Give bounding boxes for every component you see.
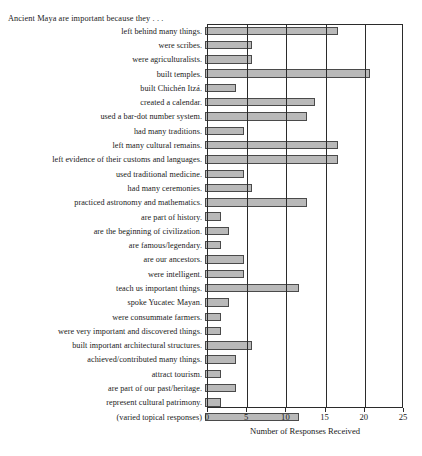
bar bbox=[205, 212, 221, 220]
bar-cell bbox=[205, 367, 401, 381]
category-label: are our ancestors. bbox=[0, 255, 205, 264]
bar-row: used a bar-dot number system. bbox=[0, 110, 422, 124]
bar bbox=[205, 384, 236, 392]
bar bbox=[205, 355, 236, 363]
bar-row: spoke Yucatec Mayan. bbox=[0, 296, 422, 310]
bar bbox=[205, 370, 221, 378]
bar-cell bbox=[205, 67, 401, 81]
bar bbox=[205, 98, 315, 106]
category-label: left evidence of their customs and langu… bbox=[0, 155, 205, 164]
category-label: spoke Yucatec Mayan. bbox=[0, 298, 205, 307]
bar-row: are part of history. bbox=[0, 210, 422, 224]
bar-cell bbox=[205, 24, 401, 38]
category-label: left behind many things. bbox=[0, 27, 205, 36]
bar bbox=[205, 184, 252, 192]
bar-row: were very important and discovered thing… bbox=[0, 324, 422, 338]
bar-row: used traditional medicine. bbox=[0, 167, 422, 181]
category-label: (varied topical responses) bbox=[0, 413, 205, 422]
bar-cell bbox=[205, 167, 401, 181]
x-tick-label: 20 bbox=[360, 412, 369, 423]
bar bbox=[205, 127, 244, 135]
category-label: represent cultural patrimony. bbox=[0, 398, 205, 407]
bar-cell bbox=[205, 181, 401, 195]
x-tick-label: 5 bbox=[244, 412, 248, 423]
category-label: were agriculturalists. bbox=[0, 55, 205, 64]
bar-row: left evidence of their customs and langu… bbox=[0, 153, 422, 167]
bar-cell bbox=[205, 267, 401, 281]
category-label: are famous/legendary. bbox=[0, 241, 205, 250]
bar bbox=[205, 284, 299, 292]
bar-cell bbox=[205, 138, 401, 152]
category-label: teach us important things. bbox=[0, 284, 205, 293]
bar-row: were consummate farmers. bbox=[0, 310, 422, 324]
category-label: practiced astronomy and mathematics. bbox=[0, 198, 205, 207]
bar-cell bbox=[205, 238, 401, 252]
bar-cell bbox=[205, 110, 401, 124]
bar-row: had many ceremonies. bbox=[0, 181, 422, 195]
bar-row: had many traditions. bbox=[0, 124, 422, 138]
bar bbox=[205, 313, 221, 321]
x-tick-label: 25 bbox=[399, 412, 408, 423]
bar-row: were intelligent. bbox=[0, 267, 422, 281]
bar-row: were agriculturalists. bbox=[0, 53, 422, 67]
category-label: built temples. bbox=[0, 70, 205, 79]
bar-row: are the beginning of civilization. bbox=[0, 224, 422, 238]
bar-row: were scribes. bbox=[0, 38, 422, 52]
bar-cell bbox=[205, 324, 401, 338]
category-label: had many ceremonies. bbox=[0, 184, 205, 193]
bar bbox=[205, 241, 221, 249]
bar-row: left behind many things. bbox=[0, 24, 422, 38]
bar-row: built temples. bbox=[0, 67, 422, 81]
bar-cell bbox=[205, 53, 401, 67]
bar bbox=[205, 27, 338, 35]
bar bbox=[205, 298, 229, 306]
chart-title: Ancient Maya are important because they … bbox=[8, 14, 163, 24]
bar-row: are our ancestors. bbox=[0, 253, 422, 267]
category-label: built Chichén Itzá. bbox=[0, 84, 205, 93]
x-axis: Number of Responses Received 0510152025 bbox=[207, 408, 403, 454]
bar-cell bbox=[205, 296, 401, 310]
bar bbox=[205, 198, 307, 206]
bar-row: teach us important things. bbox=[0, 281, 422, 295]
bar bbox=[205, 270, 244, 278]
bar-rows: left behind many things.were scribes.wer… bbox=[0, 24, 422, 424]
bar-cell bbox=[205, 253, 401, 267]
bar-cell bbox=[205, 224, 401, 238]
bar-row: built important architectural structures… bbox=[0, 339, 422, 353]
bar-cell bbox=[205, 281, 401, 295]
x-tick-label: 0 bbox=[205, 412, 209, 423]
x-tick-label: 10 bbox=[281, 412, 290, 423]
bar bbox=[205, 170, 244, 178]
bar-cell bbox=[205, 381, 401, 395]
bar-cell bbox=[205, 196, 401, 210]
bar-cell bbox=[205, 95, 401, 109]
category-label: achieved/contributed many things. bbox=[0, 355, 205, 364]
category-label: are part of our past/heritage. bbox=[0, 384, 205, 393]
bar-row: attract tourism. bbox=[0, 367, 422, 381]
bar-cell bbox=[205, 38, 401, 52]
bar-cell bbox=[205, 210, 401, 224]
bar-row: are part of our past/heritage. bbox=[0, 381, 422, 395]
bar-cell bbox=[205, 81, 401, 95]
category-label: are part of history. bbox=[0, 213, 205, 222]
bar bbox=[205, 69, 370, 77]
bar-cell bbox=[205, 310, 401, 324]
chart-plot-area: left behind many things.were scribes.wer… bbox=[0, 24, 422, 408]
category-label: used a bar-dot number system. bbox=[0, 112, 205, 121]
bar bbox=[205, 227, 229, 235]
category-label: were scribes. bbox=[0, 41, 205, 50]
category-label: used traditional medicine. bbox=[0, 170, 205, 179]
category-label: left many cultural remains. bbox=[0, 141, 205, 150]
bar bbox=[205, 84, 236, 92]
bar bbox=[205, 255, 244, 263]
category-label: were consummate farmers. bbox=[0, 313, 205, 322]
category-label: created a calendar. bbox=[0, 98, 205, 107]
bar-cell bbox=[205, 353, 401, 367]
x-axis-title: Number of Responses Received bbox=[207, 426, 403, 436]
bar-cell bbox=[205, 153, 401, 167]
x-tick-label: 15 bbox=[320, 412, 329, 423]
bar bbox=[205, 341, 252, 349]
category-label: were intelligent. bbox=[0, 270, 205, 279]
bar-row: left many cultural remains. bbox=[0, 138, 422, 152]
category-label: built important architectural structures… bbox=[0, 341, 205, 350]
